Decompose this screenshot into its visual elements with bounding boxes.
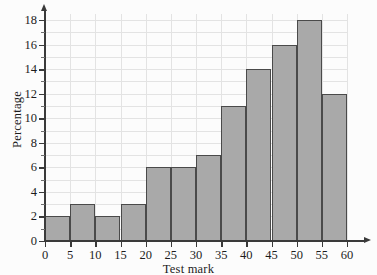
x-axis-tick bbox=[121, 241, 122, 247]
plot-area bbox=[45, 14, 347, 241]
y-axis-tick-label: 14 bbox=[11, 63, 37, 76]
histogram-bar bbox=[70, 204, 95, 241]
x-axis-tick bbox=[297, 241, 298, 247]
x-axis-label: Test mark bbox=[0, 262, 377, 275]
x-axis-tick-label: 55 bbox=[309, 249, 335, 262]
y-axis-minor-tick bbox=[41, 131, 45, 132]
x-axis-tick-label: 50 bbox=[284, 249, 310, 262]
y-axis-minor-tick bbox=[41, 81, 45, 82]
x-axis-tick-label: 15 bbox=[108, 249, 134, 262]
x-axis-tick-label: 25 bbox=[158, 249, 184, 262]
x-axis-tick-label: 35 bbox=[208, 249, 234, 262]
x-axis-tick-label: 0 bbox=[32, 249, 58, 262]
x-axis-tick bbox=[246, 241, 247, 247]
histogram-bar bbox=[322, 94, 347, 241]
y-axis-tick bbox=[39, 20, 45, 21]
y-axis-tick-label: 0 bbox=[11, 235, 37, 248]
y-axis-tick-label: 6 bbox=[11, 161, 37, 174]
y-axis-tick-label: 8 bbox=[11, 137, 37, 150]
y-axis-minor-tick bbox=[41, 229, 45, 230]
y-axis-tick bbox=[39, 192, 45, 193]
y-axis-tick bbox=[39, 69, 45, 70]
histogram-bar bbox=[272, 45, 297, 241]
x-axis-tick-label: 45 bbox=[259, 249, 285, 262]
histogram-chart: Test mark Percentage 0246810121416180510… bbox=[0, 0, 377, 275]
y-axis-minor-tick bbox=[41, 106, 45, 107]
histogram-bar bbox=[121, 204, 146, 241]
y-axis-tick-label: 2 bbox=[11, 210, 37, 223]
x-axis-tick bbox=[221, 241, 222, 247]
x-axis-tick-label: 10 bbox=[82, 249, 108, 262]
histogram-bar bbox=[95, 216, 120, 241]
y-axis-minor-tick bbox=[41, 57, 45, 58]
y-axis-tick bbox=[39, 94, 45, 95]
x-axis-tick-label: 5 bbox=[57, 249, 83, 262]
y-axis-minor-tick bbox=[41, 204, 45, 205]
y-axis-tick-label: 12 bbox=[11, 88, 37, 101]
y-axis-tick bbox=[39, 167, 45, 168]
y-axis-tick bbox=[39, 216, 45, 217]
x-axis-tick bbox=[95, 241, 96, 247]
x-axis-tick bbox=[45, 241, 46, 247]
y-axis-tick-label: 16 bbox=[11, 39, 37, 52]
y-axis-tick bbox=[39, 45, 45, 46]
histogram-bar bbox=[171, 167, 196, 241]
y-axis-minor-tick bbox=[41, 180, 45, 181]
x-axis-tick-label: 30 bbox=[183, 249, 209, 262]
histogram-bar bbox=[45, 216, 70, 241]
x-axis-tick-label: 20 bbox=[133, 249, 159, 262]
histogram-bar bbox=[146, 167, 171, 241]
x-axis-tick bbox=[196, 241, 197, 247]
y-axis-tick bbox=[39, 118, 45, 119]
y-axis-tick bbox=[39, 143, 45, 144]
y-axis-minor-tick bbox=[41, 32, 45, 33]
x-axis-line bbox=[45, 240, 365, 242]
gridline-vertical bbox=[347, 14, 348, 241]
x-axis-arrow-icon bbox=[364, 237, 371, 243]
x-axis-tick-label: 60 bbox=[334, 249, 360, 262]
histogram-bar bbox=[221, 106, 246, 241]
x-axis-tick bbox=[146, 241, 147, 247]
histogram-bar bbox=[196, 155, 221, 241]
histogram-bar bbox=[297, 20, 322, 241]
y-axis-arrow-icon bbox=[41, 4, 47, 11]
x-axis-tick bbox=[347, 241, 348, 247]
y-axis-minor-tick bbox=[41, 155, 45, 156]
histogram-bar bbox=[246, 69, 271, 241]
y-axis-tick-label: 18 bbox=[11, 14, 37, 27]
x-axis-tick bbox=[272, 241, 273, 247]
y-axis-tick-label: 4 bbox=[11, 186, 37, 199]
x-axis-tick bbox=[322, 241, 323, 247]
x-axis-tick-label: 40 bbox=[233, 249, 259, 262]
x-axis-tick bbox=[171, 241, 172, 247]
gridline-vertical bbox=[95, 14, 96, 241]
x-axis-tick bbox=[70, 241, 71, 247]
y-axis-tick-label: 10 bbox=[11, 112, 37, 125]
